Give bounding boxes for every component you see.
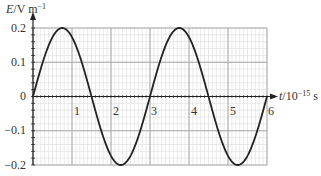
x-tick-2: 2 [113, 105, 119, 117]
x-tick-3: 3 [151, 105, 157, 117]
x-axis-label: t/10−15 s [279, 90, 318, 102]
y-tick-0.1: 0.1 [0, 56, 26, 68]
y-tick-0.2: 0.2 [0, 22, 26, 34]
x-axis-exp: −15 [298, 89, 311, 98]
x-tick-5: 5 [230, 105, 236, 117]
y-axis-unit: /V m [13, 2, 37, 16]
y-axis-exp: −1 [37, 2, 46, 11]
x-axis-suffix: s [310, 89, 318, 103]
chart-svg [0, 0, 321, 176]
x-tick-6: 6 [268, 105, 274, 117]
y-tick-neg-0.1: −0.1 [0, 124, 26, 136]
y-axis-label: E/V m−1 [6, 3, 46, 15]
y-tick-0: 0 [0, 90, 26, 102]
x-tick-4: 4 [191, 105, 197, 117]
y-tick-neg-0.2: −0.2 [0, 159, 26, 171]
x-tick-1: 1 [74, 105, 80, 117]
x-axis-unit: /10 [282, 89, 297, 103]
